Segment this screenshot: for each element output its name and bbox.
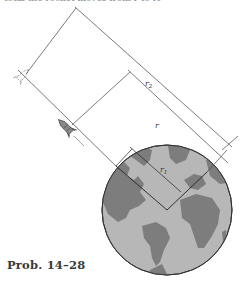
earth-globe (100, 144, 232, 280)
rocket-current (54, 115, 77, 138)
trajectory-line (18, 70, 120, 170)
rocket-ghost-dashed (14, 66, 32, 84)
exhaust-line (74, 136, 84, 146)
diagram-canvas: r2 r r1 (0, 0, 241, 285)
dimension-r2 (26, 7, 238, 150)
label-r: r (155, 121, 160, 130)
label-r2: r2 (145, 79, 153, 89)
figure-caption: Prob. 14–28 (7, 258, 85, 272)
